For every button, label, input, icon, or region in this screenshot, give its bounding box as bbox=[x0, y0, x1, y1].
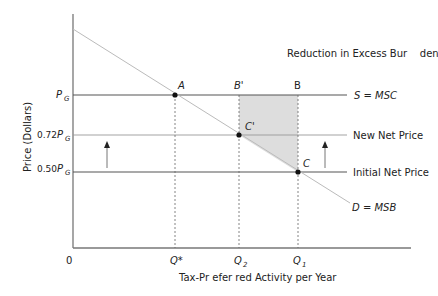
x-tick-q2: Q bbox=[234, 255, 242, 266]
label-c: C bbox=[303, 158, 310, 169]
y-tick-pg-low: P bbox=[57, 163, 64, 174]
shaded-reduction-area bbox=[239, 95, 298, 172]
y-tick-pg-top-sub: G bbox=[64, 95, 70, 103]
label-b-prime: B' bbox=[234, 80, 244, 91]
x-tick-q2-sub: 2 bbox=[243, 261, 248, 269]
up-arrow-left bbox=[104, 141, 110, 168]
point-c-prime bbox=[236, 132, 241, 137]
new-net-price-label: New Net Price bbox=[353, 130, 423, 141]
supply-label: S = MSC bbox=[354, 90, 397, 101]
excess-burden-diagram: Reduction in Excess Bur den A B' B C' C … bbox=[0, 0, 438, 296]
point-c bbox=[295, 169, 300, 174]
x-tick-q-star: Q* bbox=[170, 255, 183, 266]
y-tick-pg-top: P bbox=[56, 89, 63, 100]
label-c-prime: C' bbox=[245, 121, 255, 132]
x-axis-label: Tax-Pr efer red Activity per Year bbox=[178, 272, 337, 283]
chart-title: Reduction in Excess Bur den bbox=[287, 48, 438, 59]
y-tick-pg-low-sub: G bbox=[65, 169, 71, 177]
x-tick-q1-sub: 1 bbox=[302, 261, 306, 269]
y-tick-072: 0.72 bbox=[37, 130, 57, 140]
y-axis-label: Price (Dollars) bbox=[22, 102, 33, 172]
x-tick-q1: Q bbox=[293, 255, 301, 266]
up-arrow-right bbox=[322, 141, 328, 168]
label-b: B bbox=[294, 80, 301, 91]
demand-label: D = MSB bbox=[352, 202, 396, 213]
y-tick-050: 0.50 bbox=[37, 164, 57, 174]
label-a: A bbox=[177, 80, 185, 91]
initial-net-price-label: Initial Net Price bbox=[353, 167, 429, 178]
y-tick-pg-mid: P bbox=[57, 129, 64, 140]
x-tick-origin: 0 bbox=[66, 255, 72, 266]
y-tick-pg-mid-sub: G bbox=[65, 135, 71, 143]
point-a bbox=[172, 92, 177, 97]
